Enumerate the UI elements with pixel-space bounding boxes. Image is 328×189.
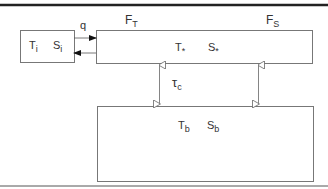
q-flux-label: q — [80, 20, 86, 31]
surface-salinity-label: S* — [208, 42, 219, 56]
surface-box — [97, 31, 313, 64]
bottom-salinity-label: Sb — [207, 120, 219, 134]
fs-flux-label: FS — [266, 14, 279, 29]
bottom-temperature-label: Tb — [178, 120, 190, 134]
tau-c-label: τc — [172, 76, 182, 92]
bottom-box — [98, 107, 314, 182]
ice-salinity-label: Si — [53, 40, 62, 54]
surface-temperature-label: T* — [175, 42, 185, 56]
ft-flux-label: FT — [125, 14, 138, 29]
ice-temperature-label: Ti — [29, 40, 38, 54]
